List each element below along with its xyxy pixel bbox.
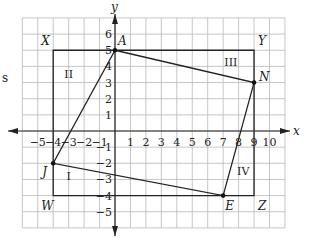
x-tick-label: 1 [127, 136, 134, 149]
vertex-point [252, 80, 257, 85]
vertex-label-z: Z [257, 199, 267, 213]
x-axis-arrow-left-icon [8, 128, 18, 134]
y-tick-label: −1 [96, 141, 112, 154]
x-tick-label: 5 [189, 136, 196, 149]
y-axis-label: y [110, 0, 118, 14]
vertex-label-j: J [39, 165, 48, 179]
grid [22, 18, 285, 228]
rectangle-xyzw [53, 50, 254, 195]
y-axis-arrow-down-icon [112, 226, 118, 236]
vertex-label-e: E [224, 199, 234, 213]
region-label-i: I [66, 170, 70, 183]
x-tick-label: −2 [76, 136, 92, 149]
vertex-label-x: X [40, 34, 50, 48]
y-tick-label: −5 [96, 206, 112, 219]
vertex-label-y: Y [258, 34, 267, 48]
x-tick-label: 4 [173, 136, 180, 149]
x-tick-label: 3 [158, 136, 165, 149]
vertex-label-n: N [258, 70, 270, 84]
y-tick-label: −2 [96, 157, 112, 170]
y-tick-label: 1 [105, 109, 112, 122]
region-label-iv: IV [237, 165, 250, 178]
tick-labels: −5−4−3−2−112345678910654321−1−2−3−4−5 [30, 28, 277, 219]
vertex-points [51, 48, 256, 198]
vertex-point [221, 193, 226, 198]
region-label-ii: II [64, 68, 73, 81]
x-tick-label: −3 [61, 136, 77, 149]
coordinate-grid-diagram: xy −5−4−3−2−112345678910654321−1−2−3−4−5… [0, 0, 309, 240]
x-tick-label: 6 [204, 136, 211, 149]
y-tick-label: −3 [96, 173, 112, 186]
y-axis-arrow-up-icon [112, 14, 118, 24]
x-tick-label: 10 [263, 136, 277, 149]
vertex-label-w: W [41, 199, 55, 213]
y-tick-label: 2 [105, 93, 112, 106]
y-tick-label: 3 [105, 77, 112, 90]
x-tick-label: 7 [220, 136, 227, 149]
x-axis-label: x [293, 124, 300, 138]
x-tick-label: 2 [142, 136, 149, 149]
quadrilateral-ajen [53, 50, 254, 195]
vertex-label-a: A [117, 34, 127, 48]
vertex-point [113, 48, 118, 53]
y-tick-label: 6 [105, 28, 112, 41]
vertex-point [51, 161, 56, 166]
region-label-iii: III [224, 56, 237, 69]
x-tick-label: −5 [30, 136, 46, 149]
